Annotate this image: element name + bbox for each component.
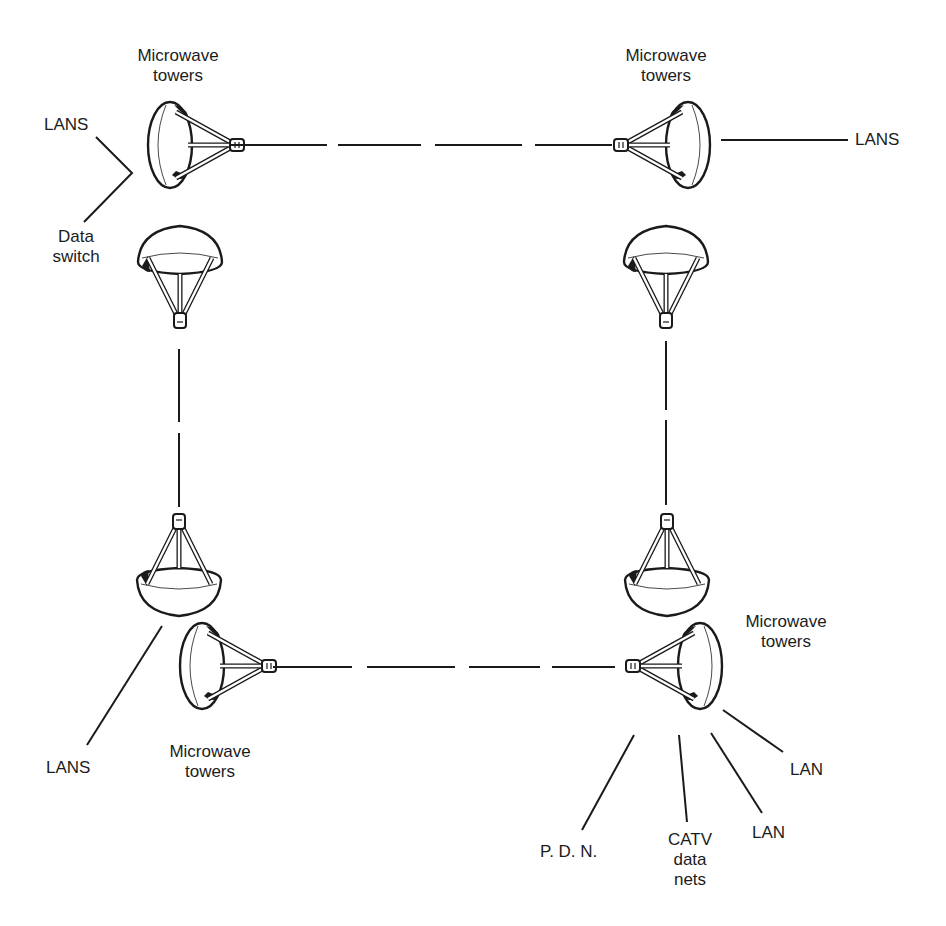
- leader-lan-upper: [723, 710, 783, 752]
- label-lans-top-left: LANS: [44, 115, 88, 135]
- top-left-dish-vertical: [138, 226, 222, 328]
- label-bottom-right-towers: Microwave towers: [726, 612, 846, 652]
- top-right-dish-horizontal: [614, 102, 710, 188]
- bottom-left-dish-horizontal: [180, 623, 276, 709]
- label-lan-upper: LAN: [790, 760, 823, 780]
- microwave-network-diagram: [0, 0, 946, 926]
- bottom-right-dish-horizontal: [626, 623, 722, 709]
- leader-catv: [679, 735, 687, 822]
- leader-pdn: [582, 735, 634, 830]
- label-catv-data-nets: CATV data nets: [660, 830, 720, 890]
- label-pdn: P. D. N.: [540, 842, 597, 862]
- label-data-switch: Data switch: [36, 227, 116, 267]
- bottom-left-dish-vertical: [137, 514, 221, 616]
- top-right-dish-vertical: [624, 226, 708, 328]
- label-top-right-towers: Microwave towers: [606, 46, 726, 86]
- leader-lans-data-switch: [84, 137, 132, 222]
- label-top-left-towers: Microwave towers: [118, 46, 238, 86]
- bottom-right-dish-vertical: [625, 514, 709, 616]
- leader-lan-lower: [711, 733, 762, 813]
- label-lans-bottom-left: LANS: [46, 758, 90, 778]
- label-lan-lower: LAN: [752, 823, 785, 843]
- leader-lans-bottom-left: [87, 626, 162, 745]
- top-left-dish-horizontal: [148, 102, 244, 188]
- label-lans-top-right: LANS: [855, 130, 899, 150]
- label-bottom-left-towers: Microwave towers: [150, 742, 270, 782]
